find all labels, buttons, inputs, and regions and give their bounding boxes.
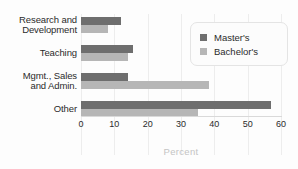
x-tick-label: 40 — [209, 119, 219, 129]
category-label-line: and Admin. — [5, 81, 77, 92]
legend-swatch-bachelors-icon — [200, 48, 207, 55]
category-label-line: Teaching — [5, 48, 77, 59]
x-tick-label: 0 — [78, 119, 83, 129]
bar-masters[interactable] — [81, 73, 128, 81]
x-tick-label: 30 — [176, 119, 186, 129]
x-axis-title: Percent — [81, 146, 281, 157]
bar-bachelors[interactable] — [81, 53, 128, 61]
x-axis-line — [81, 116, 282, 117]
bar-bachelors[interactable] — [81, 81, 209, 89]
category-label: Teaching — [5, 48, 77, 59]
bar-masters[interactable] — [81, 101, 271, 109]
x-tick-label: 10 — [109, 119, 119, 129]
bar-chart: Research andDevelopmentTeachingMgmt., Sa… — [0, 0, 298, 169]
bar-bachelors[interactable] — [81, 25, 108, 33]
category-label: Other — [5, 104, 77, 115]
bar-masters[interactable] — [81, 45, 133, 53]
legend-item-bachelors[interactable]: Bachelor's — [200, 44, 279, 58]
category-label-line: Development — [5, 25, 77, 36]
x-tick-label: 60 — [276, 119, 286, 129]
chart-legend: Master's Bachelor's — [190, 22, 288, 66]
category-axis-labels: Research andDevelopmentTeachingMgmt., Sa… — [3, 14, 77, 115]
category-label: Mgmt., Salesand Admin. — [5, 71, 77, 92]
category-label-line: Other — [5, 104, 77, 115]
legend-swatch-masters-icon — [200, 34, 207, 41]
legend-item-masters[interactable]: Master's — [200, 30, 279, 44]
x-tick-label: 20 — [143, 119, 153, 129]
x-tick-label: 50 — [243, 119, 253, 129]
bar-group — [81, 73, 281, 90]
category-label: Research andDevelopment — [5, 15, 77, 36]
legend-label-bachelors: Bachelor's — [214, 46, 258, 57]
legend-label-masters: Master's — [214, 32, 250, 43]
x-axis-ticks: 0102030405060 — [81, 119, 281, 133]
bar-masters[interactable] — [81, 17, 121, 25]
